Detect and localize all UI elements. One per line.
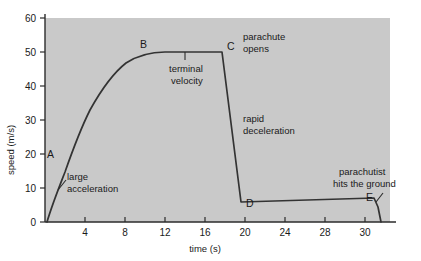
x-tick-label-28: 28 xyxy=(319,227,331,238)
callout-rapid-line2: deceleration xyxy=(243,125,295,136)
y-tick-label-50: 50 xyxy=(25,47,37,58)
callout-terminal-line1: terminal xyxy=(169,63,203,74)
callout-ground-line1: parachutist xyxy=(339,166,386,177)
speed-time-graph: 0 10 20 30 40 50 60 speed (m/s) 4 8 12 1… xyxy=(0,0,421,261)
point-label-E: E xyxy=(366,191,373,203)
x-tick-label-30: 30 xyxy=(359,227,371,238)
x-tick-label-4: 4 xyxy=(82,227,88,238)
callout-terminal-line2: velocity xyxy=(171,75,203,86)
callout-parachute-line2: opens xyxy=(243,43,269,54)
y-tick-label-30: 30 xyxy=(25,115,37,126)
point-label-C: C xyxy=(227,40,235,52)
x-tick-label-24: 24 xyxy=(279,227,291,238)
y-tick-label-0: 0 xyxy=(30,217,36,228)
callout-ground-line2: hits the ground xyxy=(333,178,396,189)
point-label-B: B xyxy=(140,38,147,50)
y-tick-label-10: 10 xyxy=(25,183,37,194)
x-tick-label-12: 12 xyxy=(159,227,171,238)
callout-large-line1: large xyxy=(67,171,88,182)
chart-figure: 0 10 20 30 40 50 60 speed (m/s) 4 8 12 1… xyxy=(0,0,421,261)
callout-rapid-line1: rapid xyxy=(243,113,264,124)
x-tick-label-8: 8 xyxy=(122,227,128,238)
x-tick-label-16: 16 xyxy=(199,227,211,238)
x-tick-label-20: 20 xyxy=(239,227,251,238)
x-axis-title: time (s) xyxy=(189,243,221,254)
point-label-D: D xyxy=(246,197,254,209)
point-label-A: A xyxy=(47,148,54,160)
callout-parachute-line1: parachute xyxy=(243,31,285,42)
y-tick-label-20: 20 xyxy=(25,149,37,160)
y-tick-label-60: 60 xyxy=(25,13,37,24)
callout-large-line2: acceleration xyxy=(67,183,118,194)
y-tick-label-40: 40 xyxy=(25,81,37,92)
y-axis-title: speed (m/s) xyxy=(5,125,16,175)
